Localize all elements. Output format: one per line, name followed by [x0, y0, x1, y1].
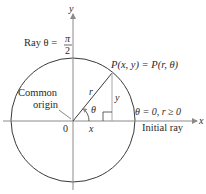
x-leg-label: x [88, 123, 94, 134]
initial-condition-label: θ = 0, r ≥ 0 [135, 106, 181, 117]
y-leg-label: y [114, 92, 120, 103]
polar-diagram: y x 0 Ray θ = π 2 P(x, y) = P(r, θ) r θ … [0, 0, 206, 194]
x-axis-label: x [198, 115, 204, 126]
origin-pointer [59, 110, 71, 119]
radius-label: r [89, 86, 93, 97]
y-axis-label: y [68, 3, 74, 14]
right-angle-marker [103, 112, 112, 121]
theta-label: θ [91, 104, 96, 115]
point-label: P(x, y) = P(r, θ) [110, 59, 179, 71]
theta-arc [83, 109, 89, 122]
origin-zero-label: 0 [63, 123, 68, 134]
ray-vertical-label: Ray θ = [24, 37, 57, 48]
origin-label: origin [33, 99, 59, 110]
pi-label: π [65, 33, 71, 44]
two-label: 2 [65, 45, 70, 56]
initial-ray-label: Initial ray [142, 122, 184, 133]
common-label: Common [18, 87, 58, 98]
